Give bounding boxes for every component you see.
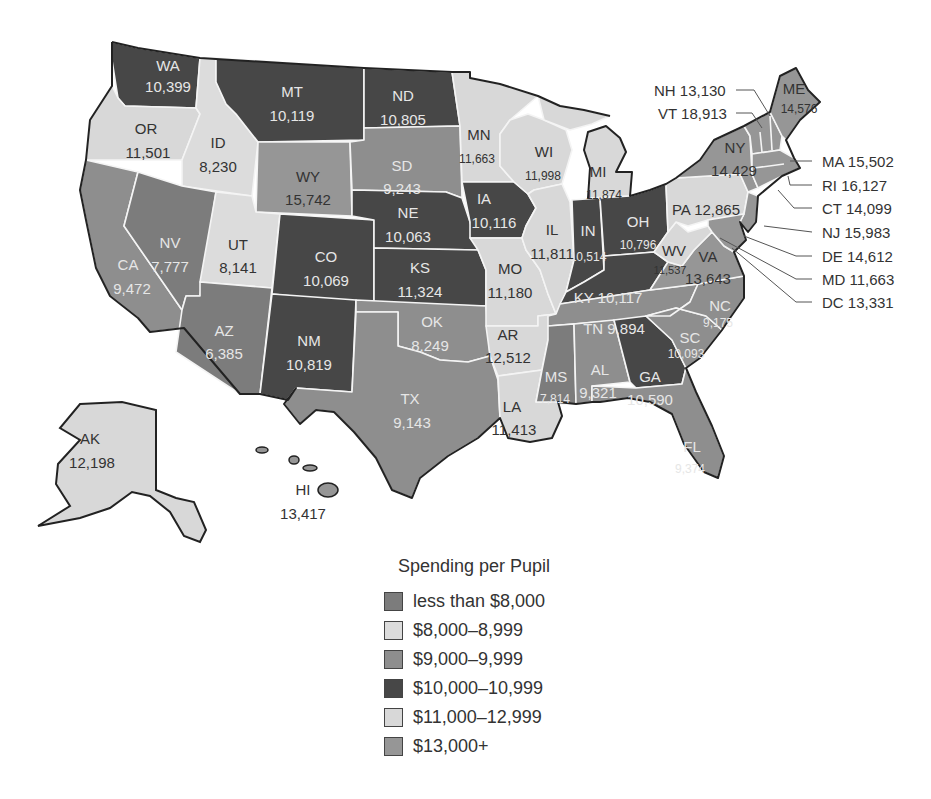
label-WY-abbr: WY (296, 168, 320, 185)
label-KY-value: 10,117 (598, 289, 643, 306)
label-OR-abbr: OR (135, 120, 158, 137)
label-HI-value: 13,417 (280, 505, 326, 522)
legend-item: $9,000–9,999 (384, 645, 550, 674)
callout-RI: RI 16,127 (822, 177, 887, 194)
state-AK[interactable] (38, 402, 206, 542)
legend-label: less than $8,000 (413, 591, 545, 612)
label-IN-value: 10,514 (570, 250, 607, 264)
label-TX-abbr: TX (400, 390, 419, 407)
label-MT-abbr: MT (281, 83, 303, 100)
callout-NH: NH 13,130 (654, 82, 726, 99)
label-AR-abbr: AR (498, 326, 519, 343)
label-WV-value: 11,537 (654, 264, 687, 276)
label-TN-value: 9,894 (607, 320, 645, 337)
label-IA-value: 10,116 (472, 214, 517, 231)
label-LA-value: 11,413 (492, 421, 537, 438)
label-UT-abbr: UT (228, 236, 248, 253)
label-CO-value: 10,069 (303, 272, 349, 289)
label-GA-abbr: GA (639, 368, 661, 385)
label-NY-value: 14,429 (711, 162, 757, 179)
label-PA-value: 12,865 (694, 201, 740, 218)
legend-item: $11,000–12,999 (384, 703, 550, 732)
label-OR-value: 11,501 (126, 144, 171, 161)
callout-CT: CT 14,099 (822, 200, 892, 217)
legend-title: Spending per Pupil (398, 556, 550, 577)
label-KY-abbr: KY (574, 289, 594, 306)
label-IA-abbr: IA (477, 190, 491, 207)
label-WA-abbr: WA (156, 57, 180, 74)
label-LA-abbr: LA (503, 398, 521, 415)
label-NM-abbr: NM (297, 332, 320, 349)
legend-label: $8,000–8,999 (413, 620, 523, 641)
label-NE-abbr: NE (398, 204, 419, 221)
label-ME-abbr: ME (783, 80, 806, 97)
legend-label: $11,000–12,999 (413, 707, 542, 728)
label-UT-value: 8,141 (219, 259, 257, 276)
legend-label: $9,000–9,999 (413, 649, 523, 670)
label-WV-abbr: WV (662, 242, 686, 259)
label-IL-abbr: IL (546, 221, 559, 238)
label-SC-value: 10,093 (668, 347, 705, 361)
legend-item: less than $8,000 (384, 587, 550, 616)
label-OH-value: 10,796 (620, 238, 657, 252)
label-NY-abbr: NY (725, 139, 746, 156)
label-AZ-value: 6,385 (205, 345, 243, 362)
callout-MD: MD 11,663 (822, 271, 894, 288)
legend-item: $13,000+ (384, 732, 550, 761)
label-GA-value: 10,590 (627, 391, 673, 408)
callout-DC: DC 13,331 (822, 294, 894, 311)
label-TN-abbr: TN (583, 320, 603, 337)
label-MS-value: 7,814 (540, 392, 570, 406)
label-OH-abbr: OH (627, 213, 650, 230)
label-WI-value: 11,998 (525, 169, 561, 183)
legend-swatch (384, 592, 403, 611)
label-VA-abbr: VA (699, 248, 718, 265)
label-NE-value: 10,063 (385, 228, 431, 245)
label-AZ-abbr: AZ (214, 322, 233, 339)
label-CO-abbr: CO (315, 248, 338, 265)
label-MO-value: 11,180 (488, 284, 533, 301)
label-FL-value: 9,374 (675, 462, 705, 476)
legend-swatch (384, 679, 403, 698)
label-NV-abbr: NV (160, 234, 181, 251)
label-AL-abbr: AL (591, 361, 609, 378)
label-MT-value: 10,119 (270, 107, 315, 124)
us-choropleth-map: WA 10,399 MT 10,119 ND 10,805 SD 9,243 N… (0, 0, 931, 560)
label-MN-value: 11,663 (459, 152, 495, 166)
callout-NJ: NJ 15,983 (822, 224, 890, 241)
label-KY: KY 10,117 (574, 289, 643, 306)
label-TX-value: 9,143 (393, 414, 431, 431)
label-ME-value: 14,576 (781, 102, 818, 116)
legend-item: $10,000–10,999 (384, 674, 550, 703)
label-AK-abbr: AK (80, 430, 100, 447)
label-KS-value: 11,324 (398, 283, 443, 300)
label-WY-value: 15,742 (285, 191, 331, 208)
label-IL-value: 11,811 (530, 245, 574, 262)
label-WI-abbr: WI (535, 143, 553, 160)
label-PA-abbr: PA (672, 201, 691, 218)
label-AR-value: 12,512 (485, 349, 531, 366)
label-SC-abbr: SC (680, 329, 701, 346)
label-SD-abbr: SD (392, 157, 413, 174)
label-OK-value: 8,249 (411, 337, 449, 354)
label-NC-abbr: NC (709, 297, 731, 314)
label-MN-abbr: MN (467, 126, 490, 143)
legend-swatch (384, 708, 403, 727)
label-CA-value: 9,472 (113, 280, 151, 297)
label-HI-abbr: HI (296, 481, 311, 498)
label-NM-value: 10,819 (286, 356, 332, 373)
label-CA-abbr: CA (118, 256, 139, 273)
label-MO-abbr: MO (498, 260, 522, 277)
callout-VT: VT 18,913 (658, 105, 727, 122)
label-ND-value: 10,805 (380, 111, 426, 128)
label-PA: PA 12,865 (672, 201, 740, 218)
legend-swatch (384, 650, 403, 669)
label-KS-abbr: KS (410, 259, 430, 276)
legend-swatch (384, 621, 403, 640)
label-FL-abbr: FL (683, 438, 701, 455)
legend-label: $10,000–10,999 (413, 678, 543, 699)
label-OK-abbr: OK (421, 313, 443, 330)
label-NC-value: 9,175 (703, 316, 733, 330)
label-ID-value: 8,230 (199, 158, 237, 175)
label-NV-value: 7,777 (151, 258, 189, 275)
